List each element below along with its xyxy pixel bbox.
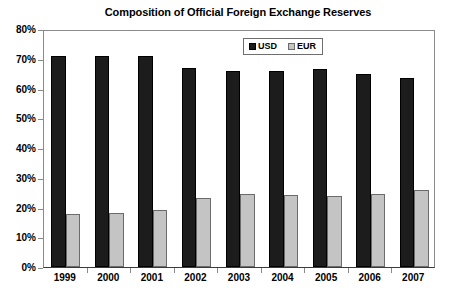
bar-usd-2001 [138,56,153,267]
bar-eur-2007 [414,190,429,267]
x-tick-label: 2002 [174,272,218,284]
x-tick-mark [261,268,262,273]
x-tick-mark [348,268,349,273]
bar-usd-2003 [226,71,241,267]
y-tick-label: 70% [0,55,36,65]
y-tick-label: 0% [0,263,36,273]
y-tick-label: 50% [0,114,36,124]
x-tick-label: 2007 [391,272,435,284]
y-tick-mark [38,60,43,61]
x-tick-mark [217,268,218,273]
x-tick-label: 2001 [130,272,174,284]
bar-usd-2007 [400,78,415,267]
y-tick-mark [38,268,43,269]
bar-usd-1999 [51,56,66,267]
chart-legend: USD EUR [243,38,323,55]
x-tick-mark [87,268,88,273]
plot-area [43,30,435,268]
legend-label-usd: USD [258,42,277,51]
x-tick-mark [391,268,392,273]
bar-usd-2005 [313,69,328,267]
chart-figure: Composition of Official Foreign Exchange… [0,0,449,306]
bar-eur-2006 [371,194,386,267]
bar-usd-2004 [269,71,284,267]
x-tick-label: 2006 [348,272,392,284]
y-tick-mark [38,119,43,120]
x-axis: 199920002001200220032004200520062007 [43,272,435,292]
y-tick-label: 80% [0,25,36,35]
y-tick-mark [38,90,43,91]
x-tick-label: 2003 [217,272,261,284]
y-tick-mark [38,238,43,239]
x-tick-mark [304,268,305,273]
bar-eur-1999 [66,214,81,267]
bar-usd-2006 [356,74,371,267]
y-tick-label: 10% [0,233,36,243]
y-tick-label: 30% [0,174,36,184]
x-tick-mark [174,268,175,273]
bar-eur-2000 [109,213,124,267]
y-tick-mark [38,149,43,150]
y-tick-mark [38,209,43,210]
legend-swatch-eur-icon [288,43,295,50]
x-tick-label: 1999 [43,272,87,284]
x-tick-label: 2004 [261,272,305,284]
y-tick-label: 60% [0,85,36,95]
bar-eur-2001 [153,210,168,267]
legend-entry-eur: EUR [288,42,316,51]
bar-usd-2002 [182,68,197,267]
x-tick-label: 2000 [87,272,131,284]
bar-eur-2004 [284,195,299,267]
y-tick-label: 40% [0,144,36,154]
x-tick-label: 2005 [304,272,348,284]
bar-eur-2003 [240,194,255,267]
legend-entry-usd: USD [249,42,277,51]
bar-eur-2005 [327,196,342,267]
y-tick-label: 20% [0,204,36,214]
y-tick-mark [38,179,43,180]
x-tick-mark [130,268,131,273]
bar-usd-2000 [95,56,110,267]
y-tick-mark [38,30,43,31]
bar-eur-2002 [196,198,211,267]
legend-label-eur: EUR [297,42,316,51]
chart-title: Composition of Official Foreign Exchange… [40,6,436,18]
legend-swatch-usd-icon [249,43,256,50]
y-axis: 0%10%20%30%40%50%60%70%80% [0,30,36,268]
